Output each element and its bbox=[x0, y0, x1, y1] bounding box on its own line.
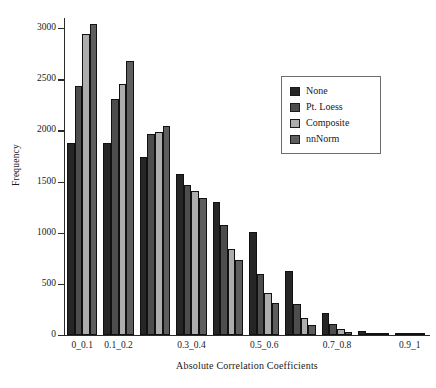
y-axis-tick-label: 2000 bbox=[18, 126, 56, 136]
y-axis-tick-label: 1500 bbox=[18, 177, 56, 187]
bar bbox=[220, 225, 228, 335]
x-axis-line bbox=[64, 335, 430, 336]
bar-group bbox=[358, 18, 388, 335]
y-axis-tick-mark bbox=[58, 284, 65, 285]
bar bbox=[155, 132, 163, 335]
bar bbox=[301, 318, 309, 335]
y-axis-tick-label: 500 bbox=[18, 279, 56, 289]
plot-area bbox=[65, 18, 429, 335]
legend-label: Composite bbox=[306, 118, 349, 128]
bar bbox=[191, 191, 199, 335]
x-axis-tick-label: 0.3_0.4 bbox=[177, 340, 206, 350]
legend-label: Pt. Loess bbox=[306, 102, 343, 112]
bar bbox=[410, 333, 418, 335]
bar-group bbox=[249, 18, 279, 335]
bar bbox=[358, 331, 366, 335]
y-axis-tick-mark bbox=[58, 182, 65, 183]
x-axis-tick-label: 0.1_0.2 bbox=[104, 340, 133, 350]
bar bbox=[140, 157, 148, 335]
x-axis-title: Absolute Correlation Coefficients bbox=[65, 360, 429, 371]
bar bbox=[272, 303, 280, 335]
bar bbox=[249, 232, 257, 335]
bar bbox=[337, 329, 345, 335]
bar bbox=[235, 260, 243, 335]
bar bbox=[176, 174, 184, 335]
bar bbox=[366, 333, 374, 335]
legend-item: nnNorm bbox=[290, 131, 373, 147]
x-axis-tick-label: 0_0.1 bbox=[72, 340, 93, 350]
y-axis-tick-label: 0 bbox=[18, 330, 56, 340]
bar bbox=[228, 249, 236, 335]
bar-chart-figure: Frequency 050010001500200025003000 0_0.1… bbox=[0, 0, 436, 388]
legend-label: None bbox=[306, 86, 328, 96]
bar-group bbox=[213, 18, 243, 335]
bar bbox=[163, 126, 171, 335]
bar-group bbox=[322, 18, 352, 335]
bar bbox=[285, 271, 293, 335]
bar bbox=[329, 324, 337, 335]
bar bbox=[75, 86, 83, 335]
bar bbox=[67, 143, 75, 335]
y-axis-title: Frequency bbox=[11, 105, 21, 225]
bar bbox=[199, 198, 207, 335]
y-axis-tick-mark bbox=[58, 28, 65, 29]
bar bbox=[103, 143, 111, 335]
bar bbox=[82, 34, 90, 335]
legend-label: nnNorm bbox=[306, 134, 339, 144]
bar-group bbox=[285, 18, 315, 335]
bar-group bbox=[67, 18, 97, 335]
legend-item: Composite bbox=[290, 115, 373, 131]
legend-item: Pt. Loess bbox=[290, 99, 373, 115]
x-axis-tick-label: 0.9_1 bbox=[399, 340, 420, 350]
bar bbox=[147, 134, 155, 335]
bar bbox=[264, 293, 272, 335]
bar bbox=[293, 304, 301, 335]
bar bbox=[213, 202, 221, 335]
y-axis-tick-label: 3000 bbox=[18, 23, 56, 33]
bar-group bbox=[140, 18, 170, 335]
bar bbox=[395, 333, 403, 335]
bar bbox=[126, 61, 134, 335]
y-axis-tick-label: 1000 bbox=[18, 228, 56, 238]
y-axis-tick-label: 2500 bbox=[18, 75, 56, 85]
legend-item: None bbox=[290, 83, 373, 99]
bar bbox=[417, 333, 425, 335]
bar bbox=[345, 332, 353, 335]
bar-group bbox=[395, 18, 425, 335]
bar-group bbox=[103, 18, 133, 335]
x-axis-origin-tick bbox=[58, 335, 65, 336]
x-axis-tick-label: 0.5_0.6 bbox=[250, 340, 279, 350]
bar bbox=[111, 99, 119, 335]
bar bbox=[381, 333, 389, 335]
y-axis-tick-mark bbox=[58, 79, 65, 80]
y-axis-tick-mark bbox=[58, 130, 65, 131]
legend-swatch bbox=[290, 135, 300, 144]
legend: NonePt. LoessCompositennNorm bbox=[281, 76, 381, 154]
bar bbox=[373, 333, 381, 335]
bar bbox=[322, 313, 330, 335]
bar bbox=[402, 333, 410, 335]
x-axis-tick-label: 0.7_0.8 bbox=[323, 340, 352, 350]
bar bbox=[119, 84, 127, 335]
bar bbox=[90, 24, 98, 335]
bar bbox=[308, 325, 316, 335]
bar bbox=[184, 185, 192, 335]
bar-group bbox=[176, 18, 206, 335]
bar bbox=[257, 274, 265, 335]
legend-swatch bbox=[290, 87, 300, 96]
y-axis-tick-mark bbox=[58, 233, 65, 234]
legend-swatch bbox=[290, 119, 300, 128]
legend-swatch bbox=[290, 103, 300, 112]
